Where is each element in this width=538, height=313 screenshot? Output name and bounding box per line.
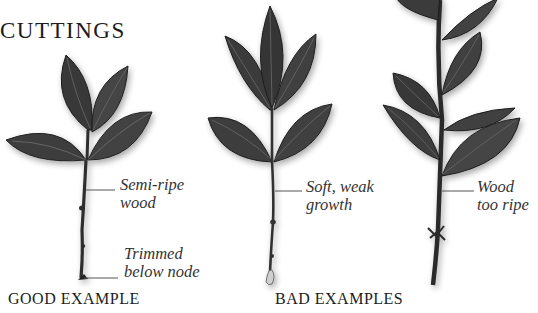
caption-good-example: GOOD EXAMPLE — [8, 290, 140, 308]
caption-bad-examples: BAD EXAMPLES — [275, 290, 403, 308]
label-semi-ripe-wood: Semi-ripe wood — [120, 176, 184, 212]
soft-cutting-illustration — [208, 6, 332, 285]
label-line-1: Soft, weak — [306, 178, 374, 196]
label-trimmed-below-node: Trimmed below node — [124, 245, 200, 281]
label-line-1: Trimmed — [124, 245, 200, 263]
diagram-title: CUTTINGS — [0, 18, 126, 44]
label-line-2: wood — [120, 194, 184, 212]
ripe-cutting-illustration — [383, 0, 520, 285]
label-line-1: Wood — [477, 178, 529, 196]
label-line-2: too ripe — [477, 196, 529, 214]
cuttings-illustration — [0, 0, 538, 313]
label-line-2: below node — [124, 263, 200, 281]
label-wood-too-ripe: Wood too ripe — [477, 178, 529, 214]
label-line-2: growth — [306, 196, 374, 214]
label-soft-weak-growth: Soft, weak growth — [306, 178, 374, 214]
label-line-1: Semi-ripe — [120, 176, 184, 194]
